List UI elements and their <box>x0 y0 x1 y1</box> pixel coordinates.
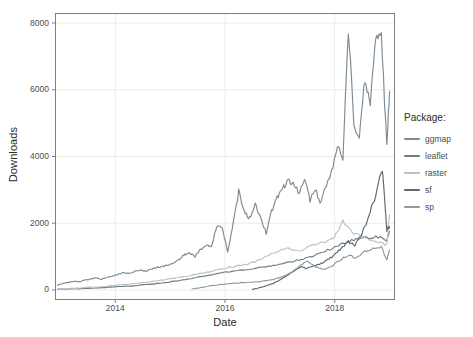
legend-key-line-icon <box>404 167 420 178</box>
legend-label: sf <box>425 185 432 195</box>
legend-item-sf[interactable]: sf <box>404 182 473 197</box>
legend-title: Package: <box>404 112 473 123</box>
y-axis-title: Downloads <box>6 22 20 287</box>
legend-item-ggmap[interactable]: ggmap <box>404 131 473 146</box>
legend-key-line-icon <box>404 184 420 195</box>
x-tick-label: 2014 <box>95 303 135 313</box>
legend-item-leaflet[interactable]: leaflet <box>404 148 473 163</box>
legend-item-sp[interactable]: sp <box>404 199 473 214</box>
legend-key-line-icon <box>404 150 420 161</box>
legend-item-raster[interactable]: raster <box>404 165 473 180</box>
x-tick-label: 2018 <box>315 303 355 313</box>
legend-label: raster <box>425 168 447 178</box>
plot-area <box>0 0 473 337</box>
legend-key-line-icon <box>404 133 420 144</box>
downloads-line-chart: 02000400060008000 201420162018 Downloads… <box>0 0 473 337</box>
legend: Package: ggmapleafletrastersfsp <box>404 112 473 216</box>
legend-label: sp <box>425 202 434 212</box>
legend-label: ggmap <box>425 134 451 144</box>
legend-key-line-icon <box>404 201 420 212</box>
legend-label: leaflet <box>425 151 448 161</box>
x-tick-label: 2016 <box>205 303 245 313</box>
x-axis-title: Date <box>55 316 395 328</box>
